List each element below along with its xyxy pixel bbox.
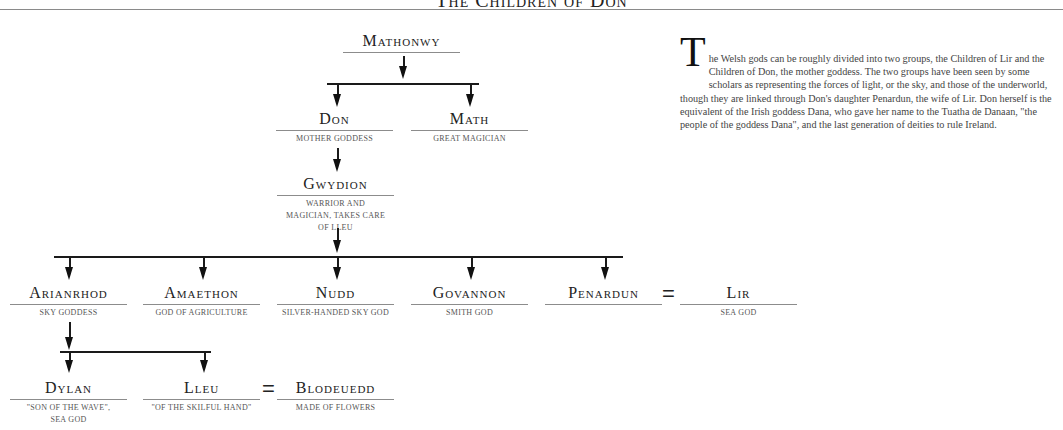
node-name: Dylan (10, 378, 127, 398)
node-lir: Lir Sea God (680, 283, 797, 319)
node-name: Arianrhod (10, 283, 127, 303)
node-govannon: Govannon Smith God (411, 283, 528, 319)
node-underline (545, 304, 662, 305)
node-name: Math (411, 109, 528, 129)
arrow-down-icon (333, 159, 341, 172)
node-underline (277, 304, 394, 305)
arrow-down-icon (65, 337, 73, 350)
arrow-down-icon (65, 360, 73, 373)
node-description: Silver-Handed Sky God (277, 307, 394, 319)
node-gwydion: Gwydion Warrior and Magician, Takes Care… (277, 174, 394, 234)
node-underline (680, 304, 797, 305)
node-name: Lir (680, 283, 797, 303)
arrow-down-icon (601, 267, 609, 280)
node-name: Lleu (143, 378, 260, 398)
drop-cap: T (680, 37, 706, 67)
node-blodeuedd: Blodeuedd Made of Flowers (277, 378, 394, 414)
arrow-down-icon (199, 267, 207, 280)
marriage-symbol: = (262, 378, 275, 400)
description-text: he Welsh gods can be roughly divided int… (680, 53, 1052, 130)
node-underline (276, 130, 393, 131)
arrow-down-icon (200, 360, 208, 373)
node-description: God of Agriculture (143, 307, 260, 319)
sibling-bar (327, 83, 479, 85)
node-underline (277, 195, 394, 196)
node-underline (143, 399, 260, 400)
node-dylan: Dylan "Son of the Wave", Sea God (10, 378, 127, 426)
arrow-down-icon (467, 267, 475, 280)
node-underline (411, 130, 528, 131)
node-description: Smith God (411, 307, 528, 319)
arrow-down-icon (399, 66, 407, 79)
node-description: Warrior and Magician, Takes Care of Lleu (277, 198, 394, 234)
arrow-down-icon (333, 240, 341, 253)
node-name: Blodeuedd (277, 378, 394, 398)
node-name: Nudd (277, 283, 394, 303)
node-description: Great Magician (411, 133, 528, 145)
node-name: Penardun (545, 283, 662, 303)
arrow-down-icon (466, 94, 474, 107)
node-underline (277, 399, 394, 400)
marriage-symbol: = (662, 283, 675, 305)
arrow-down-icon (65, 267, 73, 280)
node-name: Gwydion (277, 174, 394, 194)
sibling-bar (60, 351, 211, 353)
node-description: Sea God (680, 307, 797, 319)
node-name: Amaethon (143, 283, 260, 303)
arrow-down-icon (333, 267, 341, 280)
node-math: Math Great Magician (411, 109, 528, 145)
node-underline (343, 52, 460, 53)
node-nudd: Nudd Silver-Handed Sky God (277, 283, 394, 319)
node-description: "Of the Skilful Hand" (143, 402, 260, 414)
node-name: Govannon (411, 283, 528, 303)
node-don: Don Mother Goddess (276, 109, 393, 145)
node-description: Sky Goddess (10, 307, 127, 319)
node-description: "Son of the Wave", Sea God (10, 402, 127, 426)
node-arianrhod: Arianrhod Sky Goddess (10, 283, 127, 319)
node-underline (10, 304, 127, 305)
node-description: Made of Flowers (277, 402, 394, 414)
sibling-bar (54, 256, 623, 258)
description-paragraph: T he Welsh gods can be roughly divided i… (680, 36, 1060, 115)
arrow-down-icon (333, 94, 341, 107)
node-mathonwy: Mathonwy (343, 31, 460, 53)
title-rule (0, 9, 1063, 10)
node-name: Don (276, 109, 393, 129)
node-underline (411, 304, 528, 305)
node-description: Mother Goddess (276, 133, 393, 145)
node-name: Mathonwy (343, 31, 460, 51)
node-underline (10, 399, 127, 400)
node-amaethon: Amaethon God of Agriculture (143, 283, 260, 319)
node-lleu: Lleu "Of the Skilful Hand" (143, 378, 260, 414)
node-underline (143, 304, 260, 305)
node-penardun: Penardun (545, 283, 662, 305)
page-title: The Children of Don (0, 0, 1063, 12)
